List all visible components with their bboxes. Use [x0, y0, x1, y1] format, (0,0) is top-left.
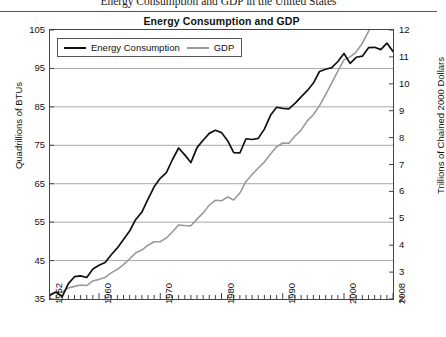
y-axis-left-tick-label: 45	[20, 256, 45, 266]
y-axis-right-tick-label: 5	[399, 213, 404, 223]
y-axis-right-title: Trillions of Chained 2000 Dollars	[435, 46, 446, 206]
y-axis-left-tick-label: 105	[20, 25, 45, 35]
y-axis-left-tick-label: 55	[20, 217, 45, 227]
header-divider	[0, 11, 437, 12]
x-axis-tick-label: 2000	[348, 283, 358, 304]
y-axis-right-tick-label: 8	[399, 133, 404, 143]
y-axis-right-tick-label: 6	[399, 186, 404, 196]
y-axis-left-tick-label: 75	[20, 140, 45, 150]
y-axis-right-tick-label: 12	[399, 25, 410, 35]
y-axis-right-tick-label: 4	[399, 240, 404, 250]
data-line-energy-consumption	[50, 43, 393, 297]
y-axis-right-tick-label: 3	[399, 267, 404, 277]
y-axis-right-ticks	[389, 30, 393, 299]
legend-item-energy-consumption: Energy Consumption	[64, 42, 180, 53]
y-axis-left-title: Quadrillions of BTUs	[13, 66, 24, 186]
legend-line-icon-energy-consumption	[64, 47, 86, 49]
y-axis-left-tick-label: 85	[20, 102, 45, 112]
plot-svg	[50, 30, 393, 299]
x-axis-tick-label: 1970	[164, 283, 174, 304]
chart-title: Energy Consumption and GDP	[49, 15, 394, 27]
y-axis-right-tick-label: 9	[399, 106, 404, 116]
x-axis-tick-label: 1960	[103, 283, 113, 304]
plot-area	[49, 29, 394, 300]
y-axis-left-ticks	[50, 30, 54, 299]
x-axis-tick-label: 1990	[287, 283, 297, 304]
y-axis-right-tick-label: 11	[399, 52, 409, 62]
x-axis-tick-label: 1980	[226, 283, 236, 304]
x-axis-tick-label: 2008	[397, 283, 407, 304]
chart-legend: Energy Consumption GDP	[57, 38, 242, 57]
legend-label-gdp: GDP	[214, 42, 235, 53]
y-axis-left-tick-label: 35	[20, 294, 45, 304]
legend-item-gdp: GDP	[187, 42, 235, 53]
y-axis-left-tick-label: 65	[20, 179, 45, 189]
gridlines	[50, 68, 393, 260]
x-axis-tick-label: 1952	[54, 283, 64, 304]
y-axis-right-tick-label: 10	[399, 79, 410, 89]
legend-label-energy-consumption: Energy Consumption	[91, 42, 180, 53]
y-axis-right-tick-label: 7	[399, 160, 404, 170]
document-header-title: Energy Consumption and GDP in the United…	[0, 0, 437, 8]
y-axis-left-tick-label: 95	[20, 63, 45, 73]
data-line-gdp	[50, 30, 393, 294]
legend-line-icon-gdp	[187, 47, 209, 49]
